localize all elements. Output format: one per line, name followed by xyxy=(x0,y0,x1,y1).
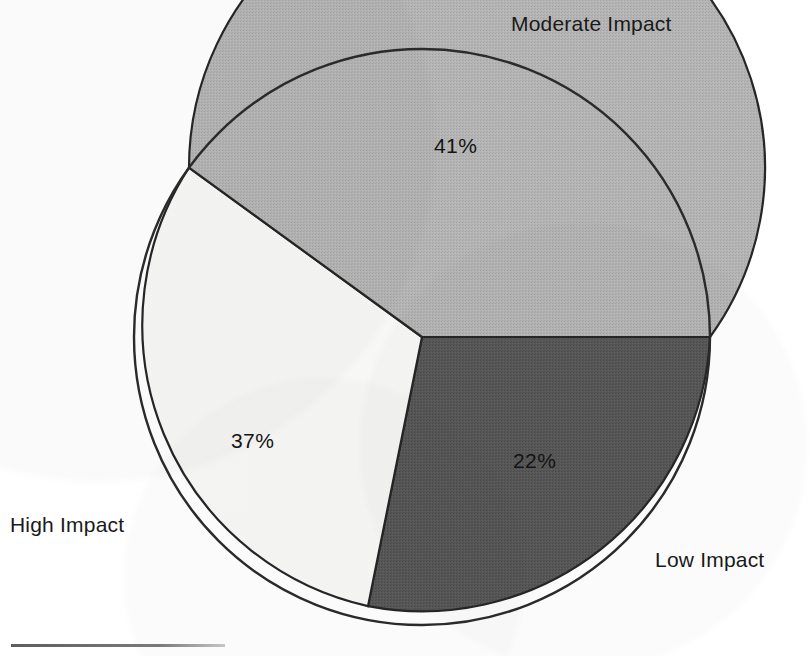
footer-rule xyxy=(11,644,225,647)
slice-value-low-impact: 22% xyxy=(513,449,556,473)
slice-value-moderate-impact: 41% xyxy=(434,134,477,158)
slice-label-high-impact: High Impact xyxy=(10,513,124,537)
pie-chart: Moderate Impact High Impact Low Impact 4… xyxy=(0,0,810,656)
slice-value-high-impact: 37% xyxy=(231,429,274,453)
slice-label-moderate-impact: Moderate Impact xyxy=(511,12,672,36)
slice-label-low-impact: Low Impact xyxy=(655,548,764,572)
